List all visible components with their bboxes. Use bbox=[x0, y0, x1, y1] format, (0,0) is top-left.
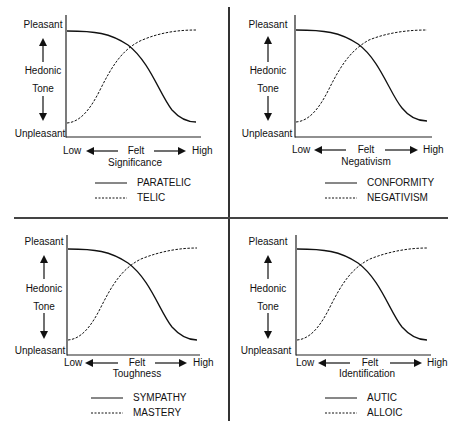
x-axis-center-label: Felt bbox=[128, 146, 145, 156]
x-axis-center-label: Felt bbox=[358, 145, 375, 155]
x-axis-variable-label: Identification bbox=[339, 369, 395, 379]
legend-solid-label: AUTIC bbox=[367, 393, 397, 403]
x-axis-high-label: High bbox=[423, 145, 444, 155]
y-axis-label-line2: Tone bbox=[32, 84, 54, 94]
y-axis-top-label: Pleasant bbox=[24, 20, 63, 30]
hedonic-tone-plot bbox=[230, 215, 463, 432]
y-axis-label-line1: Hedonic bbox=[250, 284, 287, 294]
legend-solid-label: SYMPATHY bbox=[133, 393, 187, 403]
x-axis-high-label: High bbox=[427, 358, 448, 368]
x-axis-high-label: High bbox=[192, 146, 213, 156]
legend-dashed-label: MASTERY bbox=[133, 408, 181, 418]
panel-negativism: Pleasant Hedonic Tone Unpleasant Low Fel… bbox=[230, 0, 460, 215]
y-axis-label-line2: Tone bbox=[33, 302, 55, 312]
panel-toughness: Pleasant Hedonic Tone Unpleasant Low Fel… bbox=[0, 215, 230, 430]
legend-dashed-label: TELIC bbox=[137, 193, 165, 203]
y-axis-bottom-label: Unpleasant bbox=[242, 129, 293, 139]
y-axis-label-line1: Hedonic bbox=[25, 66, 62, 76]
x-axis-high-label: High bbox=[193, 358, 214, 368]
panel-significance: Pleasant Hedonic Tone Unpleasant Low Fel… bbox=[0, 0, 230, 215]
x-axis-low-label: Low bbox=[63, 146, 81, 156]
y-axis-label-line2: Tone bbox=[257, 84, 279, 94]
y-axis-bottom-label: Unpleasant bbox=[241, 346, 292, 356]
y-axis-label-line2: Tone bbox=[257, 302, 279, 312]
panel-identification: Pleasant Hedonic Tone Unpleasant Low Fel… bbox=[230, 215, 460, 430]
x-axis-variable-label: Toughness bbox=[113, 369, 161, 379]
x-axis-center-label: Felt bbox=[362, 358, 379, 368]
x-axis-variable-label: Negativism bbox=[341, 157, 390, 167]
legend-solid-label: PARATELIC bbox=[137, 178, 191, 188]
hedonic-tone-plot bbox=[0, 0, 230, 215]
y-axis-top-label: Pleasant bbox=[249, 237, 288, 247]
y-axis-bottom-label: Unpleasant bbox=[15, 129, 66, 139]
legend-solid-label: CONFORMITY bbox=[367, 178, 434, 188]
x-axis-center-label: Felt bbox=[129, 358, 146, 368]
y-axis-top-label: Pleasant bbox=[25, 237, 64, 247]
y-axis-label-line1: Hedonic bbox=[26, 284, 63, 294]
x-axis-variable-label: Significance bbox=[108, 158, 162, 168]
x-axis-low-label: Low bbox=[292, 145, 310, 155]
x-axis-low-label: Low bbox=[296, 358, 314, 368]
legend-dashed-label: ALLOIC bbox=[367, 408, 403, 418]
x-axis-low-label: Low bbox=[64, 358, 82, 368]
y-axis-top-label: Pleasant bbox=[249, 20, 288, 30]
y-axis-label-line1: Hedonic bbox=[250, 66, 287, 76]
legend-dashed-label: NEGATIVISM bbox=[367, 193, 428, 203]
y-axis-bottom-label: Unpleasant bbox=[15, 346, 66, 356]
hedonic-tone-plot bbox=[0, 215, 230, 432]
